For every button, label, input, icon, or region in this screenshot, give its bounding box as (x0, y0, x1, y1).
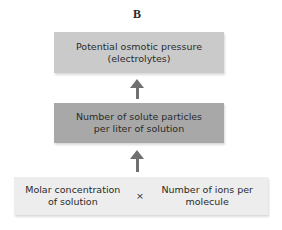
box-line: (electrolytes) (76, 53, 202, 65)
molar-concentration-term: Molar concentration of solution (20, 184, 126, 208)
ions-per-molecule-term: Number of ions per molecule (154, 184, 260, 208)
multiply-operator: × (126, 190, 155, 202)
box-line: Potential osmotic pressure (76, 41, 202, 53)
box-line: Number of solute particles (76, 111, 202, 123)
box-line: per liter of solution (76, 123, 202, 135)
arrow-up-icon (131, 79, 143, 99)
term-line: molecule (154, 196, 260, 208)
arrow-up-icon (131, 150, 143, 172)
term-line: Number of ions per (154, 184, 260, 196)
osmotic-pressure-box: Potential osmotic pressure (electrolytes… (54, 32, 224, 73)
term-line: Molar concentration (20, 184, 126, 196)
solute-particles-box: Number of solute particles per liter of … (54, 103, 224, 143)
formula-box: Molar concentration of solution × Number… (14, 177, 268, 215)
term-line: of solution (20, 196, 126, 208)
diagram-title: B (0, 7, 274, 22)
